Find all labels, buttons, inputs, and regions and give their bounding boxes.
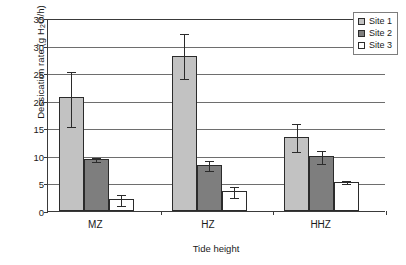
legend-swatch-icon-3 bbox=[358, 42, 365, 49]
y-tick-label-35: 35 bbox=[33, 14, 44, 25]
error-cap-lower-hz-site-3 bbox=[230, 198, 239, 199]
error-cap-upper-mz-site-2 bbox=[92, 158, 101, 159]
y-tick-label-15: 15 bbox=[33, 124, 44, 135]
y-axis-tick-labels: 05101520253035 bbox=[18, 19, 44, 211]
y-tick-label-25: 25 bbox=[33, 69, 44, 80]
error-cap-lower-mz-site-3 bbox=[117, 206, 126, 207]
x-tick-mz bbox=[161, 211, 162, 215]
x-tick-label-hhz: HHZ bbox=[310, 219, 331, 230]
dessication-rate-bar-chart: Dessication rate (g H2O/h) 0510152025303… bbox=[0, 0, 406, 265]
error-bar-hhz-site-2 bbox=[322, 151, 323, 164]
plot-area: 05101520253035 bbox=[47, 19, 385, 212]
error-cap-lower-hz-site-2 bbox=[205, 171, 214, 172]
error-cap-upper-hz-site-3 bbox=[230, 187, 239, 188]
legend-item-site-3[interactable]: Site 3 bbox=[358, 39, 392, 51]
x-axis-tick-labels: MZHZHHZ bbox=[47, 219, 385, 233]
error-cap-lower-hhz-site-1 bbox=[292, 152, 301, 153]
error-cap-lower-hhz-site-2 bbox=[317, 164, 326, 165]
error-cap-upper-hz-site-2 bbox=[205, 161, 214, 162]
legend-swatch-icon-2 bbox=[358, 30, 365, 37]
legend-label-3: Site 3 bbox=[369, 41, 392, 50]
error-cap-upper-hhz-site-1 bbox=[292, 124, 301, 125]
legend-item-site-2[interactable]: Site 2 bbox=[358, 27, 392, 39]
error-cap-upper-hhz-site-3 bbox=[342, 181, 351, 182]
error-cap-lower-mz-site-1 bbox=[67, 127, 76, 128]
x-tick-label-hz: HZ bbox=[201, 219, 214, 230]
error-bar-hz-site-1 bbox=[184, 34, 185, 78]
error-cap-lower-mz-site-2 bbox=[92, 162, 101, 163]
legend-swatch-icon-1 bbox=[358, 18, 365, 25]
error-cap-upper-hhz-site-2 bbox=[317, 151, 326, 152]
x-axis-title: Tide height bbox=[47, 243, 385, 254]
error-cap-upper-mz-site-3 bbox=[117, 195, 126, 196]
bar-hhz-site-3 bbox=[334, 182, 359, 211]
error-bar-hz-site-3 bbox=[234, 187, 235, 198]
y-tick-label-10: 10 bbox=[33, 151, 44, 162]
error-bar-hz-site-2 bbox=[209, 161, 210, 170]
y-tick-label-20: 20 bbox=[33, 96, 44, 107]
error-bar-mz-site-3 bbox=[121, 195, 122, 205]
legend-item-site-1[interactable]: Site 1 bbox=[358, 15, 392, 27]
error-bar-mz-site-1 bbox=[71, 72, 72, 127]
x-tick-hhz bbox=[386, 211, 387, 215]
error-cap-lower-hhz-site-3 bbox=[342, 184, 351, 185]
y-tick-label-30: 30 bbox=[33, 41, 44, 52]
error-bar-hhz-site-1 bbox=[297, 124, 298, 152]
bar-series-container bbox=[48, 19, 385, 211]
legend-label-1: Site 1 bbox=[369, 17, 392, 26]
legend-label-2: Site 2 bbox=[369, 29, 392, 38]
error-cap-upper-mz-site-1 bbox=[67, 72, 76, 73]
bar-hz-site-2 bbox=[197, 165, 222, 211]
bar-mz-site-2 bbox=[84, 159, 109, 211]
error-cap-upper-hz-site-1 bbox=[180, 34, 189, 35]
y-tick-mark-0 bbox=[44, 212, 48, 213]
x-tick-label-mz: MZ bbox=[88, 219, 102, 230]
chart-legend: Site 1Site 2Site 3 bbox=[353, 12, 398, 55]
x-tick-hz bbox=[273, 211, 274, 215]
error-cap-lower-hz-site-1 bbox=[180, 79, 189, 80]
